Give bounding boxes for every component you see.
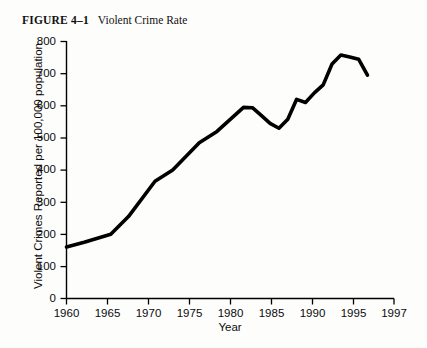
x-tick-label-1975: 1975 (168, 307, 212, 319)
line-chart: 800 700 600 500 400 300 200 100 0 1960 1… (0, 0, 427, 348)
x-tick-label-1985: 1985 (250, 307, 294, 319)
x-tick-label-1965: 1965 (86, 307, 130, 319)
x-tick-label-1960: 1960 (45, 307, 89, 319)
x-tick-label-1970: 1970 (127, 307, 171, 319)
x-axis-title: Year (66, 321, 394, 333)
y-axis-title: Violent Crimes Reported per 100,000 popu… (32, 31, 44, 301)
x-tick-label-1995: 1995 (332, 307, 376, 319)
figure-page: FIGURE 4–1Violent Crime Rate (0, 0, 427, 348)
x-tick-label-1980: 1980 (209, 307, 253, 319)
x-tick-label-1997: 1997 (372, 307, 416, 319)
x-tick-label-1990: 1990 (291, 307, 335, 319)
data-series-line (67, 55, 368, 247)
y-axis-ticks (61, 42, 67, 299)
x-axis-ticks (67, 299, 395, 305)
chart-canvas (0, 0, 427, 348)
